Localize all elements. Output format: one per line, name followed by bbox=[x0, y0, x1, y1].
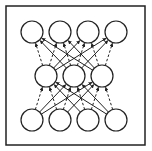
node-top bbox=[105, 21, 127, 43]
connection-edge bbox=[36, 43, 43, 65]
connection-edge bbox=[105, 43, 112, 65]
node-top bbox=[77, 21, 99, 43]
node-top bbox=[21, 21, 43, 43]
node-middle bbox=[35, 65, 57, 87]
node-bottom bbox=[21, 109, 43, 131]
node-top bbox=[49, 21, 71, 43]
connection-edge bbox=[35, 87, 42, 109]
connection-edge bbox=[54, 85, 80, 112]
connection-edge bbox=[82, 41, 108, 68]
connection-edge bbox=[82, 85, 108, 112]
node-middle bbox=[63, 65, 85, 87]
connection-edge bbox=[40, 41, 66, 68]
neural-network-diagram bbox=[0, 0, 152, 151]
node-bottom bbox=[77, 109, 99, 131]
node-bottom bbox=[105, 109, 127, 131]
connection-edge bbox=[106, 87, 113, 109]
connection-edge bbox=[40, 85, 66, 112]
node-middle bbox=[91, 65, 113, 87]
node-bottom bbox=[49, 109, 71, 131]
nodes-group bbox=[21, 21, 127, 131]
connection-edge bbox=[68, 41, 94, 68]
